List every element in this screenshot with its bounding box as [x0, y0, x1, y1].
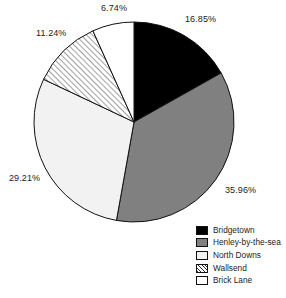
- legend-label-north-downs: North Downs: [213, 251, 261, 260]
- chart-legend: Bridgetown Henley-by-the-sea North Downs…: [196, 224, 286, 287]
- legend-item-north-downs[interactable]: North Downs: [196, 249, 286, 262]
- legend-swatch-hatch: [196, 264, 208, 273]
- legend-label-bridgetown: Bridgetown: [213, 226, 255, 235]
- legend-item-henley-by-the-sea[interactable]: Henley-by-the-sea: [196, 237, 286, 250]
- legend-item-wallsend[interactable]: Wallsend: [196, 262, 286, 275]
- pie-value-label-bridgetown: 16.85%: [185, 14, 216, 24]
- pie-value-label-brick-lane: 6.74%: [101, 3, 127, 13]
- pie-value-label-wallsend: 11.24%: [36, 28, 66, 38]
- legend-item-brick-lane[interactable]: Brick Lane: [196, 274, 286, 287]
- pie-slice-group: [34, 22, 234, 222]
- legend-swatch-white: [196, 276, 208, 285]
- legend-label-henley-by-the-sea: Henley-by-the-sea: [213, 238, 281, 247]
- legend-label-brick-lane: Brick Lane: [213, 276, 252, 285]
- legend-swatch-light-gray: [196, 251, 208, 260]
- legend-item-bridgetown[interactable]: Bridgetown: [196, 224, 286, 237]
- pie-value-label-henley-by-the-sea: 35.96%: [225, 185, 256, 195]
- pie-value-label-north-downs: 29.21%: [9, 173, 40, 183]
- legend-label-wallsend: Wallsend: [213, 264, 247, 273]
- legend-swatch-gray: [196, 238, 208, 247]
- legend-swatch-black: [196, 226, 208, 235]
- pie-chart: 16.85%35.96%29.21%11.24%6.74% Bridgetown…: [0, 0, 286, 298]
